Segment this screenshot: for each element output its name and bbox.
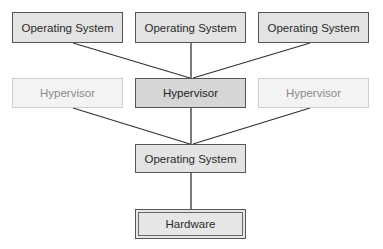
virtualization-stack-diagram: Operating System Operating System Operat… bbox=[0, 0, 383, 249]
hypervisor-box-faded-left: Hypervisor bbox=[12, 78, 123, 108]
connector-hyp3-to-host-os bbox=[193, 108, 310, 144]
connector-os3-to-hypervisor bbox=[193, 43, 310, 78]
guest-os-label: Operating System bbox=[267, 22, 359, 34]
guest-os-label: Operating System bbox=[144, 22, 236, 34]
guest-os-box-2: Operating System bbox=[135, 12, 246, 43]
hypervisor-label: Hypervisor bbox=[163, 87, 218, 99]
hypervisor-box-faded-right: Hypervisor bbox=[258, 78, 369, 108]
guest-os-box-1: Operating System bbox=[12, 12, 123, 43]
connector-os1-to-hypervisor bbox=[73, 43, 190, 78]
guest-os-box-3: Operating System bbox=[258, 12, 369, 43]
host-os-label: Operating System bbox=[144, 153, 236, 165]
host-os-box: Operating System bbox=[135, 144, 246, 173]
hypervisor-label: Hypervisor bbox=[286, 87, 341, 99]
connector-hyp1-to-host-os bbox=[73, 108, 190, 144]
hardware-label: Hardware bbox=[166, 218, 216, 230]
hypervisor-box-active: Hypervisor bbox=[135, 78, 246, 108]
hypervisor-label: Hypervisor bbox=[40, 87, 95, 99]
hardware-box: Hardware bbox=[135, 209, 246, 239]
hardware-inner-border: Hardware bbox=[138, 212, 243, 236]
guest-os-label: Operating System bbox=[21, 22, 113, 34]
